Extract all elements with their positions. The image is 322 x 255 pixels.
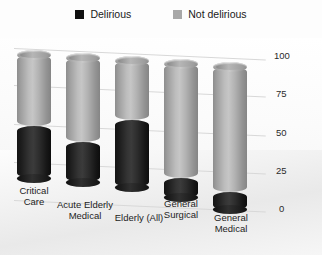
bar-general-surgical[interactable]	[164, 59, 198, 196]
bar-cap-inner	[167, 61, 195, 67]
bar-cap	[115, 56, 149, 66]
bar-segment-not-delirious	[17, 55, 51, 126]
bar-cap	[17, 50, 51, 60]
bar-foot	[115, 183, 149, 192]
ytick-75: 75	[276, 88, 287, 99]
ytick-0: 0	[279, 203, 284, 214]
ytick-25: 25	[276, 165, 287, 176]
category-label-general-medical: General Medical	[196, 212, 266, 234]
bar-critical-care[interactable]	[17, 50, 51, 183]
chart-root: Delirious Not delirious	[0, 0, 322, 255]
bar-segment-not-delirious	[115, 61, 149, 120]
bar-acute-elderly-medical[interactable]	[66, 53, 100, 186]
bar-segment-delirious	[17, 126, 51, 178]
bar-foot	[66, 178, 100, 187]
bar-cap-inner	[216, 64, 244, 70]
ytick-100: 100	[274, 50, 290, 61]
ytick-50: 50	[276, 127, 287, 138]
bar-cap-inner	[69, 55, 97, 61]
bar-cap-inner	[118, 58, 146, 64]
bar-segment-not-delirious	[164, 64, 198, 178]
bar-segment-delirious	[115, 120, 149, 187]
bar-cap	[213, 62, 247, 72]
bar-cap	[66, 53, 100, 63]
bar-cap-inner	[20, 52, 48, 58]
bar-cap	[164, 59, 198, 69]
bar-elderly-all[interactable]	[115, 56, 149, 191]
bar-general-medical[interactable]	[213, 62, 247, 208]
bar-foot	[17, 174, 51, 183]
bar-segment-not-delirious	[66, 58, 100, 142]
bar-segment-not-delirious	[213, 67, 247, 192]
plot-area: 100 75 50 25 0 Critical Care Acute Elder…	[0, 0, 322, 255]
bar-segment-delirious	[66, 142, 100, 182]
